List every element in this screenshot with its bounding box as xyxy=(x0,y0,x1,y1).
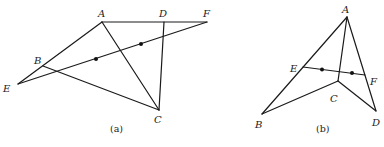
point-label-d: D xyxy=(371,117,380,128)
figure-a: A D F B E C (a) xyxy=(2,8,211,134)
segment-ef xyxy=(303,67,365,75)
segment-ac xyxy=(102,22,159,110)
segment-ae xyxy=(18,22,102,84)
segment-ef xyxy=(18,22,207,84)
point-label-a: A xyxy=(97,8,105,19)
point-label-f: F xyxy=(369,76,378,87)
segment-ad xyxy=(347,17,376,111)
segment-dc xyxy=(159,22,164,110)
point-label-f: F xyxy=(202,8,211,19)
point-label-c: C xyxy=(330,93,338,104)
midpoint-dot xyxy=(350,71,354,75)
point-label-e: E xyxy=(2,83,11,94)
point-label-b: B xyxy=(254,119,262,130)
figure-b: A E F C B D (b) xyxy=(254,4,380,134)
segment-bc xyxy=(262,81,338,114)
point-label-b: B xyxy=(33,55,41,66)
segment-bc xyxy=(43,66,159,110)
point-label-a: A xyxy=(341,4,349,15)
point-label-d: D xyxy=(158,8,167,19)
midpoint-dot xyxy=(139,42,143,46)
midpoint-dot xyxy=(320,68,324,72)
figure-caption-a: (a) xyxy=(110,123,123,134)
point-label-e: E xyxy=(289,63,298,74)
midpoint-dot xyxy=(94,57,98,61)
geometry-diagram: A D F B E C (a) A E F C B D (b) xyxy=(0,0,384,147)
point-label-c: C xyxy=(154,114,162,125)
figure-caption-b: (b) xyxy=(316,123,330,134)
